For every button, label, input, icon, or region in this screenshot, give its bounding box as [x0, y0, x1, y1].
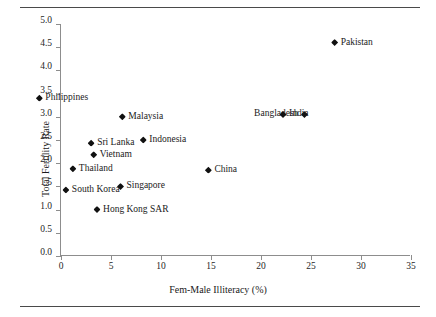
diamond-marker-icon [140, 137, 147, 144]
diamond-marker-icon [279, 111, 286, 118]
data-point-label: Thailand [79, 164, 113, 174]
x-axis-tick: 5 [111, 255, 112, 260]
x-axis-tick-label: 5 [109, 262, 114, 272]
y-axis-tick-label: 2.0 [26, 155, 52, 165]
data-point[interactable]: Pakistan [331, 38, 373, 48]
y-axis-tick: 0.5 [56, 233, 61, 234]
diamond-marker-icon [69, 165, 76, 172]
data-point[interactable]: Indonesia [140, 135, 186, 145]
page-rule-bottom [20, 306, 420, 307]
y-axis-tick-label: 0.0 [26, 248, 52, 258]
x-axis-tick: 15 [211, 255, 212, 260]
data-point-label: Sri Lanka [97, 138, 134, 148]
data-point-label: Singapore [126, 182, 165, 192]
data-point[interactable]: Thailand [69, 164, 112, 174]
y-axis-tick-label: 1.5 [26, 178, 52, 188]
y-axis-tick: 1.5 [56, 186, 61, 187]
data-point[interactable]: Malaysia [119, 112, 163, 122]
x-axis-tick: 25 [311, 255, 312, 260]
x-axis-tick-label: 35 [406, 262, 416, 272]
y-axis-tick-label: 3.0 [26, 109, 52, 119]
data-point[interactable]: Vietnam [90, 150, 132, 160]
x-axis-tick-label: 20 [256, 262, 266, 272]
x-axis-tick: 20 [261, 255, 262, 260]
data-point[interactable]: South Korea [62, 185, 119, 195]
x-axis-tick-label: 0 [59, 262, 64, 272]
x-axis-title: Fem-Male Illiteracy (%) [0, 284, 436, 295]
data-point-label: Indonesia [149, 135, 186, 145]
diamond-marker-icon [119, 113, 126, 120]
y-axis-tick: 5.0 [56, 24, 61, 25]
y-axis-tick: 4.5 [56, 47, 61, 48]
y-axis-tick-label: 5.0 [26, 16, 52, 26]
diamond-marker-icon [90, 151, 97, 158]
x-axis-tick: 35 [411, 255, 412, 260]
x-axis-tick: 10 [161, 255, 162, 260]
figure: Total Fertility Rate 0.00.51.01.52.02.53… [0, 0, 436, 317]
data-point-label: Pakistan [341, 38, 373, 48]
y-axis-tick-label: 1.0 [26, 202, 52, 212]
data-point-label: India [289, 110, 309, 120]
x-axis-tick: 0 [61, 255, 62, 260]
x-axis-tick-label: 10 [156, 262, 166, 272]
data-point-label: Philippines [45, 93, 88, 103]
data-point-label: South Korea [72, 185, 120, 195]
y-axis-tick: 4.0 [56, 70, 61, 71]
y-axis-tick-label: 0.5 [26, 225, 52, 235]
diamond-marker-icon [205, 167, 212, 174]
x-axis-tick-label: 15 [206, 262, 216, 272]
data-point-label: Malaysia [128, 112, 163, 122]
data-point[interactable]: Singapore [117, 182, 165, 192]
data-point[interactable]: India [279, 110, 308, 120]
y-axis-tick-label: 2.5 [26, 132, 52, 142]
y-axis-tick-label: 4.0 [26, 62, 52, 72]
diamond-marker-icon [36, 95, 43, 102]
data-point-label: Vietnam [100, 150, 132, 160]
data-point-label: Hong Kong SAR [103, 205, 168, 215]
y-axis-tick: 2.0 [56, 163, 61, 164]
page-rule-top [20, 7, 420, 8]
y-axis-tick: 3.0 [56, 117, 61, 118]
diamond-marker-icon [94, 206, 101, 213]
x-axis-tick-label: 30 [356, 262, 366, 272]
diamond-marker-icon [331, 39, 338, 46]
y-axis-tick: 1.0 [56, 210, 61, 211]
data-point[interactable]: China [205, 165, 237, 175]
x-axis-tick-label: 25 [306, 262, 316, 272]
y-axis-tick-label: 4.5 [26, 39, 52, 49]
x-axis-tick: 30 [361, 255, 362, 260]
data-point[interactable]: Sri Lanka [88, 138, 135, 148]
data-point[interactable]: Philippines [36, 93, 88, 103]
data-point-label: China [214, 165, 237, 175]
diamond-marker-icon [88, 140, 95, 147]
data-point[interactable]: Hong Kong SAR [94, 205, 169, 215]
diamond-marker-icon [62, 187, 69, 194]
plot-area: 0.00.51.01.52.02.53.03.54.04.55.0 051015… [60, 24, 410, 256]
y-axis-tick: 2.5 [56, 140, 61, 141]
